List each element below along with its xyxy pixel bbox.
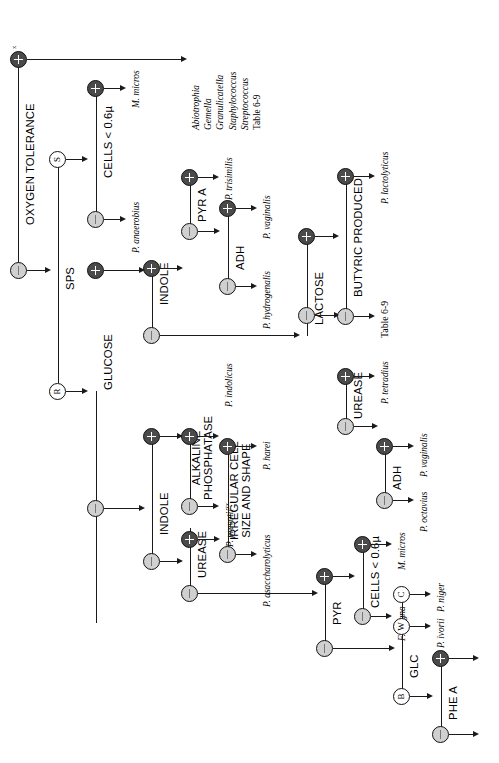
arrowhead-glc — [389, 645, 395, 651]
line-sps-stem — [58, 163, 59, 383]
arrowhead-urease-1 — [177, 558, 183, 564]
node-urease2-negative[interactable] — [337, 418, 354, 435]
line-urease1-neg-to-pyr — [198, 593, 313, 594]
arrowhead-pyr — [312, 590, 318, 596]
organism-p-vaginalis-2: P. vaginalis — [419, 433, 429, 477]
node-phea-positive[interactable] — [432, 650, 449, 667]
line-oxytol-neg-to-sps — [27, 270, 46, 271]
node-alp-negative[interactable] — [181, 498, 198, 515]
node-indole2-negative[interactable] — [143, 553, 160, 570]
node-glucose-positive[interactable] — [87, 262, 104, 279]
label-irregular-line2: SIZE AND SHAPE — [240, 443, 252, 537]
line-indole1-pos-to-pyra — [160, 268, 178, 269]
line-glc-stem — [402, 597, 403, 697]
node-pyra-negative[interactable] — [181, 223, 198, 240]
node-sps-resistant[interactable]: R — [49, 383, 66, 400]
organism-p-tetradius: P. tetradius — [380, 361, 390, 404]
node-cells2-negative[interactable] — [354, 608, 371, 625]
line-glucose-pos-to-indole1 — [104, 270, 140, 271]
line-irregular-neg — [236, 554, 252, 555]
node-indole2-positive[interactable] — [143, 428, 160, 445]
node-glc-c[interactable]: C — [393, 586, 410, 603]
node-sps-sensitive[interactable]: S — [49, 151, 66, 168]
node-glc-w[interactable]: W — [393, 618, 410, 635]
arrowhead-m-micros-2 — [386, 541, 392, 547]
line-adh1-stem — [228, 212, 229, 286]
label-pyr-a: PYR A — [196, 188, 208, 222]
line-pyr-pos-to-cells2 — [333, 576, 350, 577]
node-indole1-negative[interactable] — [143, 327, 160, 344]
organism-p-anaerobius: P. anaerobius — [131, 202, 141, 253]
node-cells2-positive[interactable] — [354, 536, 371, 553]
line-cells1-pos — [104, 88, 121, 89]
node-indole1-positive[interactable] — [143, 260, 160, 277]
label-indole-2: INDOLE — [158, 492, 170, 535]
node-adh1-positive[interactable] — [219, 200, 236, 217]
organism-p-hydrogenalis: P. hydrogenalis — [262, 271, 272, 329]
line-irregular-pos — [236, 446, 252, 447]
aerobe-item-3: Staphylococcus — [228, 72, 238, 130]
node-alp-positive[interactable] — [181, 428, 198, 445]
label-sps: SPS — [64, 267, 76, 290]
line-pyra-pos — [198, 177, 214, 178]
arrowhead-butyric — [333, 233, 339, 239]
line-glc-b-to-phea — [410, 696, 428, 697]
node-pyr-negative[interactable] — [316, 640, 333, 657]
arrowhead-p-harei — [251, 443, 257, 449]
line-indole2-stem — [152, 440, 153, 562]
node-adh1-negative[interactable] — [219, 278, 236, 295]
organism-p-asaccharolyticus: P. asaccharolyticus — [262, 535, 272, 607]
arrowhead-irregular-cell — [214, 536, 220, 542]
aerobe-item-4: Streptococcus — [240, 78, 250, 130]
line-pyr-stem — [325, 580, 326, 648]
aerobe-item-1: Gemella — [203, 98, 213, 130]
aerobe-item-2: Granulicatella — [215, 75, 225, 130]
line-sps-s-to-cells — [66, 159, 83, 160]
label-cells-small-2: CELLS < 0.6µ — [369, 536, 381, 608]
label-butyric-produced: BUTYRIC PRODUCED — [352, 178, 364, 297]
label-phe-a: PHE A — [447, 686, 459, 720]
label-adh-1: ADH — [234, 246, 246, 270]
arrowhead-adh-1 — [214, 228, 220, 234]
node-butyric-positive[interactable] — [337, 168, 354, 185]
node-adh2-positive[interactable] — [376, 438, 393, 455]
arrowhead-p-prevotii — [213, 503, 219, 509]
arrowhead-p-lactolyticus — [369, 173, 375, 179]
arrowhead-indole-2 — [139, 505, 145, 511]
node-urease1-negative[interactable] — [181, 585, 198, 602]
arrowhead-aerobe-list — [181, 56, 187, 62]
node-pyra-positive[interactable] — [181, 169, 198, 186]
node-irregular-negative[interactable] — [219, 546, 236, 563]
node-oxygen-tolerance-positive[interactable] — [10, 51, 27, 68]
line-adh1-pos — [236, 208, 252, 209]
node-oxygen-tolerance-negative[interactable] — [10, 262, 27, 279]
arrowhead-lactose — [294, 332, 300, 338]
node-phea-negative[interactable] — [432, 726, 449, 743]
label-irregular-line1: IRREGULAR CELL — [228, 441, 240, 540]
arrowhead-p-indolicus — [213, 433, 219, 439]
arrowhead-m-micros-1 — [120, 85, 126, 91]
node-lactose-negative[interactable] — [298, 307, 315, 324]
node-cells1-negative[interactable] — [87, 211, 104, 228]
node-irregular-positive[interactable] — [219, 438, 236, 455]
node-lactose-positive[interactable] — [298, 228, 315, 245]
node-glc-b[interactable]: B — [393, 688, 410, 705]
arrowhead-table-69-top — [369, 313, 375, 319]
node-urease1-positive[interactable] — [181, 531, 198, 548]
label-alp-line2: PHOSPHATASE — [202, 416, 214, 500]
arrowhead-p-tetradius — [369, 373, 375, 379]
node-glucose-negative[interactable] — [87, 500, 104, 517]
arrowhead-pyr-a — [177, 265, 183, 271]
line-phea-pos — [449, 658, 474, 659]
line-pyr-neg-to-glc — [333, 648, 390, 649]
line-to-aerobe-list — [27, 59, 182, 60]
label-glc: GLC — [408, 654, 420, 678]
node-butyric-negative[interactable] — [337, 308, 354, 325]
node-urease2-positive[interactable] — [337, 368, 354, 385]
line-butyric-neg — [354, 316, 370, 317]
label-cells-small-1: CELLS < 0.6µ — [102, 106, 114, 178]
node-pyr-positive[interactable] — [316, 568, 333, 585]
node-adh2-negative[interactable] — [376, 492, 393, 509]
node-cells1-positive[interactable] — [87, 80, 104, 97]
arrowhead-p-ivorii — [425, 623, 431, 629]
